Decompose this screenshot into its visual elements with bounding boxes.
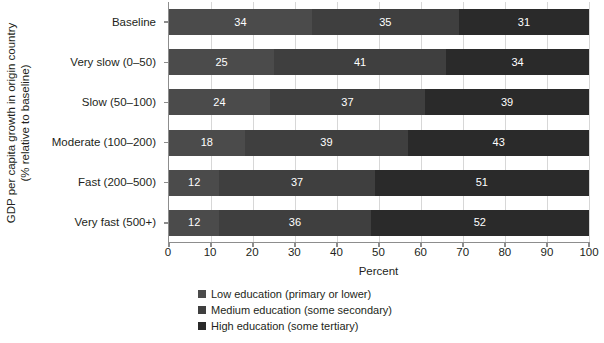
stacked-bar-chart-figure: GDP per capita growth in origin country … — [0, 0, 604, 343]
bar-segment: 34 — [446, 49, 589, 75]
legend-swatch-icon — [198, 322, 206, 330]
bar-segment: 37 — [219, 170, 374, 196]
bar-row: 123652 — [169, 210, 589, 236]
legend-item-label: High education (some tertiary) — [211, 319, 358, 333]
y-axis-label-text: GDP per capita growth in origin country … — [4, 22, 32, 223]
bar-segment: 12 — [169, 210, 219, 236]
bar-segment: 18 — [169, 130, 245, 156]
bar-segment: 39 — [245, 130, 409, 156]
grid-line — [589, 2, 590, 242]
y-axis-tick-label: Very fast (500+) — [32, 216, 156, 229]
x-axis-tick-label: 30 — [288, 246, 301, 258]
bar-series-layer: 343531254134243739183943123751123652 — [169, 2, 589, 242]
bar-segment: 31 — [459, 9, 589, 35]
bar-segment: 39 — [425, 89, 589, 115]
y-axis-tick-labels: BaselineVery slow (0–50)Slow (50–100)Mod… — [36, 0, 162, 245]
x-axis-tick-label: 100 — [579, 246, 598, 258]
bar-segment: 24 — [169, 89, 270, 115]
y-axis-label: GDP per capita growth in origin country … — [0, 0, 36, 245]
x-axis-tick-label: 10 — [204, 246, 217, 258]
x-axis-tick-label: 40 — [330, 246, 343, 258]
legend-item-label: Low education (primary or lower) — [211, 287, 371, 301]
x-axis-tick-label: 0 — [165, 246, 171, 258]
legend-swatch-icon — [198, 290, 206, 298]
bar-row: 254134 — [169, 49, 589, 75]
bar-segment: 41 — [274, 49, 446, 75]
bar-row: 123751 — [169, 170, 589, 196]
x-axis-tick-label: 50 — [372, 246, 385, 258]
bar-row: 183943 — [169, 130, 589, 156]
y-axis-tick-label: Very slow (0–50) — [32, 56, 156, 69]
bar-segment: 51 — [375, 170, 589, 196]
bar-segment: 37 — [270, 89, 425, 115]
bar-segment: 34 — [169, 9, 312, 35]
bar-segment: 43 — [408, 130, 589, 156]
bar-segment: 35 — [312, 9, 459, 35]
bar-segment: 12 — [169, 170, 219, 196]
bar-row: 343531 — [169, 9, 589, 35]
plot-area: 343531254134243739183943123751123652 — [168, 2, 589, 243]
y-axis-tick-label: Baseline — [32, 16, 156, 29]
bar-segment: 36 — [219, 210, 370, 236]
bar-segment: 25 — [169, 49, 274, 75]
bar-row: 243739 — [169, 89, 589, 115]
legend-item[interactable]: High education (some tertiary) — [198, 319, 406, 333]
x-axis-tick-label: 80 — [498, 246, 511, 258]
chart-legend: Low education (primary or lower)Medium e… — [0, 287, 604, 333]
y-axis-tick-label: Slow (50–100) — [32, 96, 156, 109]
x-axis-tick-label: 60 — [414, 246, 427, 258]
legend-item[interactable]: Low education (primary or lower) — [198, 287, 406, 301]
y-axis-label-line-1: GDP per capita growth in origin country — [4, 22, 18, 223]
legend-swatch-icon — [198, 306, 206, 314]
y-axis-tick-label: Fast (200–500) — [32, 176, 156, 189]
x-axis-tick-labels: 0102030405060708090100 — [168, 246, 589, 264]
y-axis-label-line-2: (% relative to baseline) — [18, 22, 32, 223]
x-axis-label: Percent — [168, 265, 589, 277]
x-axis-tick-label: 20 — [246, 246, 259, 258]
x-axis-tick-label: 70 — [456, 246, 469, 258]
bar-segment: 52 — [371, 210, 589, 236]
x-axis-tick-label: 90 — [540, 246, 553, 258]
legend-item[interactable]: Medium education (some secondary) — [198, 303, 406, 317]
y-axis-tick-label: Moderate (100–200) — [32, 136, 156, 149]
legend-item-label: Medium education (some secondary) — [211, 303, 392, 317]
